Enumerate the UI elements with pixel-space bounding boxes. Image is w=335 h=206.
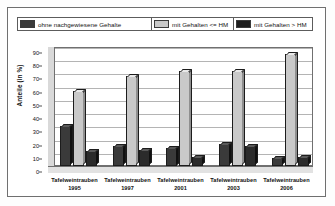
y-tick-mark-50 bbox=[39, 105, 42, 106]
bar-side-face bbox=[295, 52, 298, 165]
chart-frame: ohne nachgewiesene Gehalte mit Gehalten … bbox=[7, 7, 326, 197]
x-axis-label-2001: Tafelweintrauben2001 bbox=[154, 176, 207, 192]
x-label-name: Tafelweintrauben bbox=[157, 177, 203, 183]
x-label-year: 2001 bbox=[154, 184, 207, 192]
legend-swatch-series-3 bbox=[236, 20, 251, 28]
bar-2006-series-3 bbox=[298, 157, 309, 166]
bar-2006-series-1 bbox=[272, 158, 283, 166]
plot-area: Anteile (in %) 0102030405060708090 Tafel… bbox=[8, 34, 327, 198]
bar-1995-series-3 bbox=[86, 151, 97, 166]
bar-group bbox=[219, 47, 256, 166]
bar-2001-series-1 bbox=[166, 148, 177, 167]
bar-group bbox=[166, 47, 203, 166]
bar-2006-series-2 bbox=[285, 54, 296, 166]
x-axis-label-2006: Tafelweintrauben2006 bbox=[260, 176, 313, 192]
y-tick-mark-0 bbox=[39, 172, 42, 173]
bar-group bbox=[272, 47, 309, 166]
x-label-year: 1997 bbox=[101, 184, 154, 192]
y-tick-mark-60 bbox=[39, 92, 42, 93]
x-axis-labels: Tafelweintrauben1995Tafelweintrauben1997… bbox=[48, 176, 313, 198]
bar-2003-series-1 bbox=[219, 144, 230, 166]
y-axis-title: Anteile (in %) bbox=[16, 54, 23, 118]
y-tick-mark-70 bbox=[39, 79, 42, 80]
x-label-year: 2006 bbox=[260, 184, 313, 192]
x-axis-label-1995: Tafelweintrauben1995 bbox=[48, 176, 101, 192]
x-axis-label-1997: Tafelweintrauben1997 bbox=[101, 176, 154, 192]
legend-swatch-series-1 bbox=[20, 20, 35, 28]
bar-groups bbox=[48, 47, 313, 172]
bar-2001-series-2 bbox=[179, 71, 190, 166]
x-axis-label-2003: Tafelweintrauben2003 bbox=[207, 176, 260, 192]
x-label-name: Tafelweintrauben bbox=[263, 177, 309, 183]
legend-label-series-3: mit Gehalten > HM bbox=[254, 21, 311, 28]
bar-2001-series-3 bbox=[192, 157, 203, 166]
bar-1997-series-1 bbox=[113, 146, 124, 166]
bar-side-face bbox=[96, 149, 99, 165]
legend-swatch-series-2 bbox=[154, 20, 169, 28]
scanned-page: ohne nachgewiesene Gehalte mit Gehalten … bbox=[0, 0, 335, 206]
bar-1997-series-2 bbox=[126, 76, 137, 166]
bar-group bbox=[113, 47, 150, 166]
bar-side-face bbox=[189, 69, 192, 165]
y-tick-mark-30 bbox=[39, 132, 42, 133]
y-axis-ticks: 0102030405060708090 bbox=[24, 47, 42, 172]
bar-2003-series-2 bbox=[232, 71, 243, 166]
y-tick-mark-10 bbox=[39, 158, 42, 159]
x-label-name: Tafelweintrauben bbox=[51, 177, 97, 183]
bar-group bbox=[60, 47, 97, 166]
y-tick-mark-90 bbox=[39, 53, 42, 54]
bar-side-face bbox=[149, 148, 152, 165]
x-label-year: 2003 bbox=[207, 184, 260, 192]
legend-item-mit-gehalten-kleiner-gleich-hm: mit Gehalten <= HM bbox=[151, 18, 233, 30]
legend-label-series-1: ohne nachgewiesene Gehalte bbox=[38, 21, 125, 28]
legend-item-mit-gehalten-groesser-hm: mit Gehalten > HM bbox=[233, 18, 312, 30]
bar-2003-series-3 bbox=[245, 146, 256, 166]
bar-1995-series-2 bbox=[73, 91, 84, 166]
bar-1995-series-1 bbox=[60, 126, 71, 166]
y-tick-mark-40 bbox=[39, 119, 42, 120]
x-label-name: Tafelweintrauben bbox=[104, 177, 150, 183]
bar-side-face bbox=[202, 155, 205, 165]
legend-label-series-2: mit Gehalten <= HM bbox=[172, 21, 232, 28]
bar-side-face bbox=[308, 155, 311, 165]
y-tick-mark-20 bbox=[39, 145, 42, 146]
y-tick-mark-80 bbox=[39, 66, 42, 67]
bar-1997-series-3 bbox=[139, 150, 150, 166]
legend-item-ohne-nachgewiesene-gehalte: ohne nachgewiesene Gehalte bbox=[18, 18, 151, 30]
bar-side-face bbox=[255, 144, 258, 165]
x-label-year: 1995 bbox=[48, 184, 101, 192]
chart-legend: ohne nachgewiesene Gehalte mit Gehalten … bbox=[17, 17, 313, 31]
x-label-name: Tafelweintrauben bbox=[210, 177, 256, 183]
